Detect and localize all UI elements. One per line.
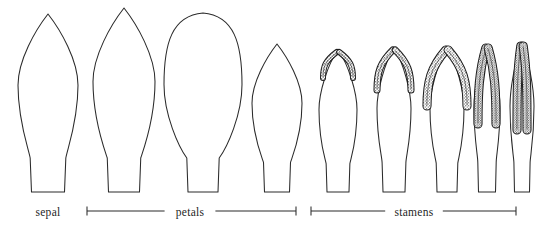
organ-outline-petal-1 xyxy=(93,8,155,192)
organ-stamen-2 xyxy=(377,48,411,192)
organ-outline-sepal-1 xyxy=(18,14,78,192)
label-group-petals: petals xyxy=(87,206,296,219)
labels-layer: sepalpetalsstamens xyxy=(35,206,516,219)
organ-outline-petal-3 xyxy=(252,44,302,192)
organ-illustration-canvas: sepalpetalsstamens xyxy=(0,0,544,234)
organ-sepal-1 xyxy=(18,14,78,192)
organ-petal-3 xyxy=(252,44,302,192)
organ-stamen-4 xyxy=(474,46,500,192)
organs-layer xyxy=(18,8,534,192)
label-group-sepal: sepal xyxy=(35,206,60,219)
organ-petal-2 xyxy=(164,13,242,192)
label-petals: petals xyxy=(176,206,205,219)
label-stamens: stamens xyxy=(394,206,433,218)
organ-stamen-3 xyxy=(427,48,467,192)
label-group-stamens: stamens xyxy=(311,206,516,218)
floral-organ-diagram: sepalpetalsstamens xyxy=(0,0,544,234)
label-sepal: sepal xyxy=(35,206,60,219)
organ-stamen-1 xyxy=(319,50,357,192)
organ-stamen-5 xyxy=(510,44,534,192)
organ-outline-petal-2 xyxy=(164,13,242,192)
organ-petal-1 xyxy=(93,8,155,192)
